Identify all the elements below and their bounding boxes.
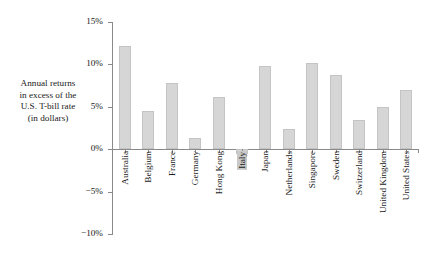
bar[interactable]	[306, 63, 318, 149]
x-axis-tick	[418, 149, 419, 153]
bar[interactable]	[353, 120, 365, 150]
bar[interactable]	[142, 111, 154, 149]
y-axis-tick-label: 10%	[86, 57, 103, 70]
bar[interactable]	[213, 97, 225, 150]
bar[interactable]	[189, 138, 201, 149]
y-axis-tick-label: −10%	[81, 227, 103, 240]
y-axis-tick-label: 0%	[91, 142, 103, 155]
x-axis-label-slot: Italy	[230, 151, 253, 251]
x-axis-label: Japan	[260, 151, 270, 172]
x-axis-label: Sweden	[331, 151, 341, 180]
x-axis-label-slot: Japan	[254, 151, 277, 251]
x-axis-label-slot: Singapore	[301, 151, 324, 251]
x-axis-label-slot: Switzerland	[348, 151, 371, 251]
bar[interactable]	[330, 75, 342, 150]
x-axis-label: Switzerland	[354, 151, 364, 195]
bar[interactable]	[119, 46, 131, 149]
x-axis-label: Germany	[190, 151, 200, 185]
bar[interactable]	[259, 66, 271, 149]
x-axis-label-slot: United Kingdom	[371, 151, 394, 251]
x-axis-label-slot: Hong Kong	[207, 151, 230, 251]
y-axis-caption-line-1: Annual returns	[2, 78, 94, 90]
x-axis-label: France	[167, 151, 177, 176]
bar-chart-figure: Annual returns in excess of the U.S. T-b…	[0, 0, 428, 255]
x-axis-label-slot: Australia	[113, 151, 136, 251]
y-axis-caption-line-4: (in dollars)	[2, 113, 94, 125]
x-axis-label: Hong Kong	[214, 151, 224, 194]
bar[interactable]	[283, 129, 295, 149]
y-axis-caption-line-3: U.S. T-bill rate	[2, 101, 94, 113]
x-axis-label: Netherlands	[284, 151, 294, 195]
x-axis-label: United Kingdom	[378, 151, 388, 213]
x-axis-label: Italy	[237, 151, 247, 170]
y-axis-caption-line-2: in excess of the	[2, 90, 94, 102]
x-axis-label: Australia	[120, 151, 130, 185]
y-axis-tick-label: −5%	[86, 185, 103, 198]
x-axis-label-slot: Sweden	[324, 151, 347, 251]
x-axis-label-slot: Germany	[183, 151, 206, 251]
bar[interactable]	[377, 107, 389, 149]
x-axis-label-slot: United States	[395, 151, 418, 251]
x-axis-label-slot: France	[160, 151, 183, 251]
x-axis-label-slot: Belgium	[136, 151, 159, 251]
y-axis-caption: Annual returns in excess of the U.S. T-b…	[2, 78, 94, 124]
x-axis-label: United States	[401, 151, 411, 200]
x-axis-label: Singapore	[307, 151, 317, 188]
y-axis-tick-label: 15%	[86, 15, 103, 28]
bar[interactable]	[166, 83, 178, 149]
x-axis-label-slot: Netherlands	[277, 151, 300, 251]
x-axis-label: Belgium	[143, 151, 153, 183]
y-axis-tick-label: 5%	[91, 100, 103, 113]
bar[interactable]	[400, 90, 412, 149]
x-axis-labels: AustraliaBelgiumFranceGermanyHong KongIt…	[113, 151, 418, 251]
